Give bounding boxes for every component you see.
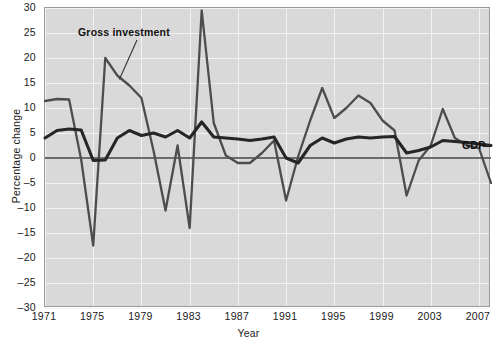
x-tick-label: 1983 [176,311,201,322]
y-axis-label: Percentage change [10,96,22,216]
annotation-gross-investment: Gross investment [78,26,170,38]
x-tick-label: 1971 [32,311,57,322]
x-tick-label: 1999 [369,311,394,322]
x-tick-label: 2003 [417,311,442,322]
x-tick-label: 1975 [80,311,105,322]
x-tick-label: 1991 [273,311,298,322]
x-tick-label: 2007 [466,311,491,322]
x-tick-label: 1995 [321,311,346,322]
x-axis-ticks: 1971197519791983198719911995199920032007 [0,0,497,341]
annotation-gdp: GDP [462,139,485,151]
x-axis-label: Year [0,327,497,339]
x-tick-label: 1987 [225,311,250,322]
x-tick-label: 1979 [128,311,153,322]
chart-figure: 302520151050–5–10–15–20–25–30 1971197519… [0,0,497,341]
